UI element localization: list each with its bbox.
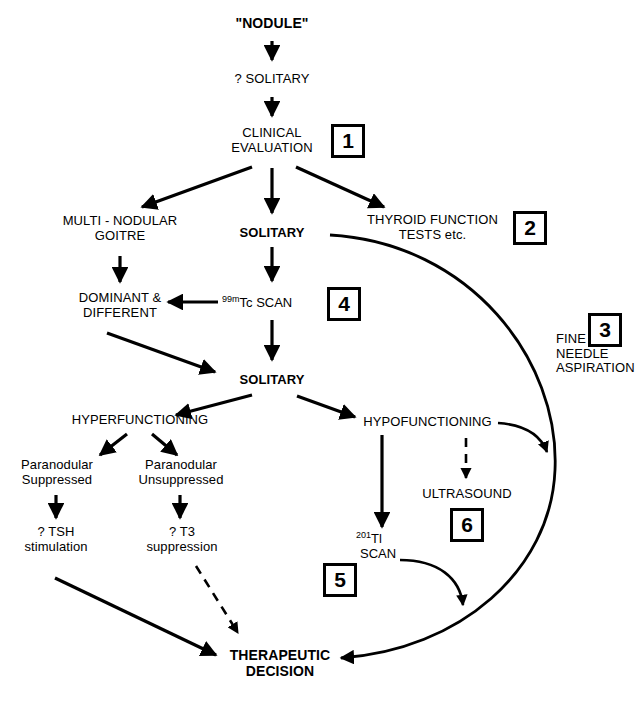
step-box-2: 2 <box>513 211 547 245</box>
node-tsh-stimulation: ? TSH stimulation <box>6 525 106 554</box>
arc-solitary-to-therapeutic <box>330 235 555 658</box>
node-question-solitary: ? SOLITARY <box>212 72 332 87</box>
step-box-3: 3 <box>588 313 622 347</box>
flowchart-connectors <box>0 0 644 701</box>
step-box-4: 4 <box>327 287 361 321</box>
node-hypofunctioning: HYPOFUNCTIONING <box>355 415 500 430</box>
node-tl-scan: 201Tl SCAN <box>356 532 396 562</box>
arrow-clinical-to-thyroid-tests <box>296 167 384 207</box>
tc-scan-label: Tc SCAN <box>240 295 293 310</box>
tl-scan-label: SCAN <box>360 546 396 561</box>
node-solitary-primary: SOLITARY <box>212 226 332 241</box>
node-paranodular-unsuppressed: Paranodular Unsuppressed <box>122 458 240 487</box>
arrow-tl-scan-to-arc-curve <box>400 560 463 605</box>
node-therapeutic-decision: THERAPEUTIC DECISION <box>212 648 348 679</box>
tc-scan-superscript: 99m <box>222 294 240 304</box>
node-solitary-secondary: SOLITARY <box>212 373 332 388</box>
step-box-6: 6 <box>450 508 484 542</box>
node-thyroid-function-tests: THYROID FUNCTION TESTS etc. <box>355 213 510 242</box>
step-box-1: 1 <box>331 124 365 158</box>
node-nodule: "NODULE" <box>212 16 332 32</box>
tl-scan-superscript: 201 <box>356 530 371 540</box>
arrow-t3-to-therapeutic-dashed <box>196 566 238 633</box>
node-t3-suppression: ? T3 suppression <box>132 525 232 554</box>
tl-scan-element: Tl <box>371 531 382 546</box>
node-dominant-different: DOMINANT & DIFFERENT <box>42 291 198 320</box>
arrow-hypo-to-arc-curve <box>498 423 547 452</box>
flowchart-canvas: "NODULE" ? SOLITARY CLINICAL EVALUATION … <box>0 0 644 701</box>
node-ultrasound: ULTRASOUND <box>412 487 522 502</box>
node-multinodular-goitre: MULTI - NODULAR GOITRE <box>40 214 200 243</box>
node-hyperfunctioning: HYPERFUNCTIONING <box>40 413 240 428</box>
arrow-tsh-to-therapeutic <box>55 578 216 655</box>
step-box-5: 5 <box>323 563 357 597</box>
arrow-clinical-to-multinodular <box>142 167 252 207</box>
arrow-dominant-to-solitary2 <box>107 333 215 372</box>
node-paranodular-suppressed: Paranodular Suppressed <box>6 458 108 487</box>
node-tc-scan: 99mTc SCAN <box>222 295 292 310</box>
node-clinical-evaluation: CLINICAL EVALUATION <box>212 126 332 155</box>
arrow-hyper-to-suppressed <box>100 434 127 455</box>
arrow-hyper-to-unsuppressed <box>152 434 177 455</box>
arrow-solitary2-to-hypofunctioning <box>297 396 355 417</box>
